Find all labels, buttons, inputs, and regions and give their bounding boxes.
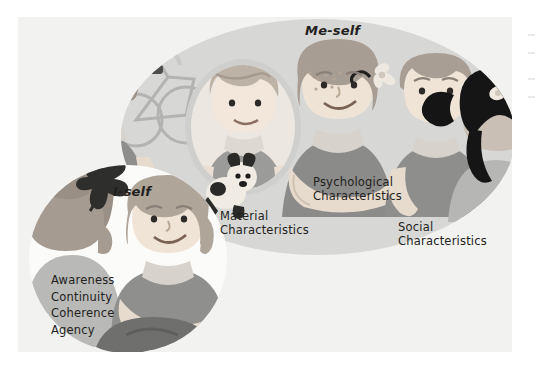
page-edge-artifact	[528, 52, 535, 54]
page-edge-artifact	[528, 96, 535, 98]
i-self-title: I-self	[113, 184, 151, 199]
caption-material-characteristics: Material Characteristics	[220, 210, 309, 237]
diagram-panel: Me-self I-self Material Characteristics …	[18, 17, 512, 352]
page-edge-artifact	[528, 34, 535, 36]
page-edge-artifact	[528, 78, 535, 80]
me-self-title: Me-self	[305, 23, 360, 38]
i-self-attribute-list: Awareness Continuity Coherence Agency	[51, 272, 115, 338]
caption-social-characteristics: Social Characteristics	[398, 221, 487, 248]
caption-psychological-characteristics: Psychological Characteristics	[313, 176, 402, 203]
figure-canvas: Me-self I-self Material Characteristics …	[0, 0, 538, 377]
